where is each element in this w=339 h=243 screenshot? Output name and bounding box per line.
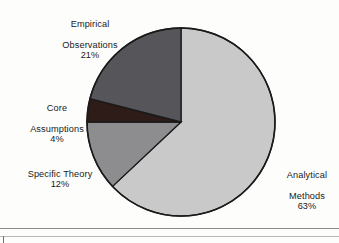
slice-label-specific-theory: Specific Theory 12% (6, 158, 114, 200)
slice-value-specific: 12% (6, 179, 114, 190)
slice-label-core-assumptions: Core Assumptions 4% (12, 92, 102, 156)
figure-corner-tick (3, 236, 4, 243)
slice-label-empirical-observations: Empirical Observations 21% (38, 8, 142, 72)
slice-label-specific-line1: Specific Theory (28, 169, 93, 179)
pie-chart-figure: Empirical Observations 21% Core Assumpti… (0, 0, 339, 228)
slice-label-empirical-line2: Observations (62, 40, 117, 50)
slice-label-empirical-line1: Empirical (71, 19, 110, 29)
slice-label-analytical-line2: Methods (289, 191, 325, 201)
figure-divider-rule-secondary (0, 236, 339, 237)
chart-page: Empirical Observations 21% Core Assumpti… (0, 0, 339, 243)
slice-value-core: 4% (12, 134, 102, 145)
slice-label-analytical-line1: Analytical (287, 170, 327, 180)
figure-divider-rule (0, 228, 339, 229)
slice-value-analytical: 63% (276, 201, 338, 212)
slice-label-core-line1: Core (47, 103, 67, 113)
slice-label-analytical-methods: Analytical Methods 63% (276, 159, 338, 223)
slice-value-empirical: 21% (38, 50, 142, 61)
slice-label-core-line2: Assumptions (30, 124, 84, 134)
